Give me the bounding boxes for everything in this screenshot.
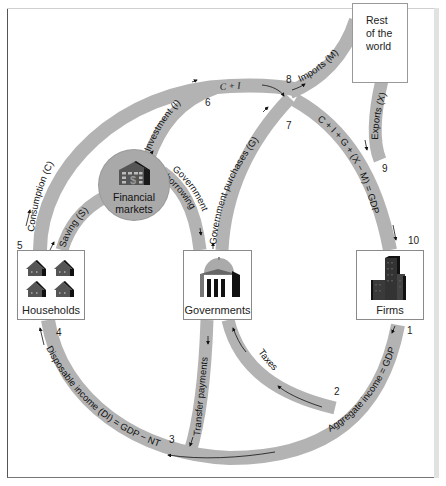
flow-band-taxes (228, 320, 335, 408)
governments-label: Governments (184, 304, 251, 316)
step-number-3: 3 (169, 434, 175, 445)
financial-markets-line2: markets (99, 203, 169, 215)
arrow-exports (365, 140, 367, 150)
arrow-saving (50, 242, 54, 250)
government-building-icon (196, 257, 242, 299)
step-number-1: 1 (407, 325, 413, 336)
step-number-7: 7 (286, 120, 292, 131)
rest-of-world-line2: of the (366, 27, 392, 40)
financial-markets-line1: Financial (99, 191, 169, 203)
households-label: Households (18, 304, 84, 316)
step-number-5: 5 (17, 240, 23, 251)
svg-text:$: $ (130, 174, 136, 186)
step-number-6: 6 (205, 97, 211, 108)
node-governments: Governments (183, 250, 252, 320)
svg-text:Saving (S): Saving (S) (56, 204, 90, 248)
node-firms: Firms (356, 250, 424, 320)
node-households: Households (17, 250, 85, 320)
node-rest-of-world: Rest of the world (352, 3, 408, 83)
label-disposable-income: Disposable income (DI) = GDP − NT (44, 344, 162, 449)
rest-of-world-line3: world (366, 40, 392, 53)
step-number-4: 4 (56, 327, 62, 338)
flow-band-bottom (48, 320, 398, 458)
label-c-plus-i: C + I (219, 80, 241, 92)
step-number-8: 8 (286, 74, 292, 85)
step-number-9: 9 (382, 163, 388, 174)
step-number-10: 10 (408, 235, 419, 246)
houses-icon (25, 259, 79, 299)
arrow-investment-end (192, 80, 197, 82)
bank-building-icon: $ (117, 160, 151, 186)
svg-text:C + I: C + I (219, 80, 241, 92)
step-number-2: 2 (334, 386, 340, 397)
firms-label: Firms (357, 304, 423, 316)
arrow-gov-purchases (263, 107, 268, 112)
office-buildings-icon (371, 256, 411, 300)
node-financial-markets: $ Financial markets (99, 150, 169, 220)
label-saving: Saving (S) (56, 204, 90, 248)
svg-text:Disposable income (DI) = GDP −: Disposable income (DI) = GDP − NT (44, 344, 162, 449)
rest-of-world-line1: Rest (366, 14, 392, 27)
